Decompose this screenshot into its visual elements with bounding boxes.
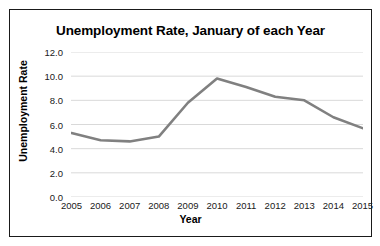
- y-tick-label: 2.0: [17, 167, 63, 178]
- x-axis-title: Year: [10, 213, 371, 225]
- x-tick-label: 2015: [343, 200, 380, 211]
- y-tick-label: 12.0: [17, 47, 63, 58]
- y-tick-label: 10.0: [17, 71, 63, 82]
- y-tick-label: 6.0: [17, 119, 63, 130]
- data-series-line: [72, 79, 363, 142]
- y-tick-label: 8.0: [17, 95, 63, 106]
- chart-title: Unemployment Rate, January of each Year: [10, 23, 371, 38]
- chart-container: Unemployment Rate, January of each Year …: [9, 9, 372, 237]
- plot-area: [71, 52, 363, 197]
- y-axis-tick-labels: 0.02.04.06.08.010.012.0: [15, 52, 63, 197]
- y-tick-label: 4.0: [17, 143, 63, 154]
- data-line-series: [71, 52, 363, 197]
